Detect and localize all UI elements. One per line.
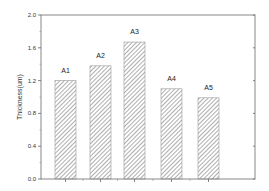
bar-a3 — [124, 42, 145, 179]
bars: A1A2A3A4A5 — [55, 28, 219, 179]
y-tick-label: 0.0 — [28, 176, 37, 182]
bar-a5 — [198, 98, 219, 179]
y-tick-label: 1.6 — [28, 45, 37, 51]
y-tick-label: 1.2 — [28, 78, 37, 84]
y-tick-label: 0.8 — [28, 110, 37, 116]
bar-label: A2 — [96, 52, 105, 59]
bar-a2 — [90, 66, 111, 179]
bar-label: A4 — [167, 75, 176, 82]
bar-chart: A1A2A3A4A5 0.00.40.81.21.62.0 Thickness(… — [0, 0, 269, 191]
bar-a4 — [161, 89, 182, 179]
y-axis-label: Thickness(um) — [16, 74, 24, 120]
bar-label: A1 — [61, 67, 70, 74]
bar-label: A3 — [130, 28, 139, 35]
y-tick-label: 2.0 — [28, 12, 37, 18]
bar-label: A5 — [204, 84, 213, 91]
bar-a1 — [55, 81, 76, 179]
y-tick-label: 0.4 — [28, 143, 37, 149]
